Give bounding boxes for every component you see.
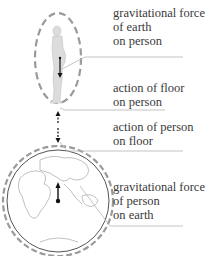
label-line: on floor <box>113 134 194 148</box>
label-action-person-on-floor: action of person on floor <box>113 120 194 148</box>
label-line: action of person <box>113 120 194 134</box>
person-figure-icon <box>50 26 66 103</box>
label-gravitational-force-person-on-earth: gravitational force of person on earth <box>113 180 205 222</box>
label-line: action of floor <box>113 81 185 95</box>
label-line: gravitational force <box>113 6 205 20</box>
label-gravitational-force-earth-on-person: gravitational force of earth on person <box>113 6 205 48</box>
label-line: on person <box>113 95 185 109</box>
arrow-up-icon <box>56 111 61 116</box>
label-line: of person <box>113 194 205 208</box>
label-line: on person <box>113 34 205 48</box>
label-line: of earth <box>113 20 205 34</box>
label-line: gravitational force <box>113 180 205 194</box>
label-action-floor-on-person: action of floor on person <box>113 81 185 109</box>
label-line: on earth <box>113 208 205 222</box>
